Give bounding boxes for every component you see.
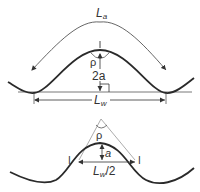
top-angle-label: ρ xyxy=(90,56,96,68)
bottom-amplitude-label: a xyxy=(105,147,111,159)
inflection-mark-right: I xyxy=(138,155,141,166)
arc-length-label: La xyxy=(96,6,108,21)
half-wavelength-label: Lw/2 xyxy=(93,164,116,179)
bottom-angle-label: ρ xyxy=(96,129,102,141)
inflection-mark-left: I xyxy=(68,155,71,166)
top-figure: La ρ 2a Lw xyxy=(8,6,194,108)
arc-length-arrow xyxy=(32,22,166,70)
wave-geometry-diagram: La ρ 2a Lw ρ xyxy=(0,0,200,192)
amplitude-label: 2a xyxy=(92,69,106,83)
bottom-figure: ρ a Lw/2 I I xyxy=(10,119,194,183)
right-angle-marker xyxy=(100,84,109,92)
